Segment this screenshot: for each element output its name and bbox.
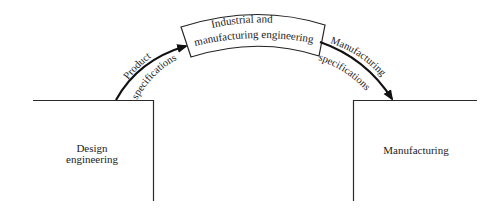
engineering-flow-diagram: Design engineering Manufacturing Product… bbox=[0, 0, 494, 219]
manufacturing-specifications-arrow: Manufacturing specifications bbox=[317, 34, 392, 99]
product-specifications-arrow: Product specifications bbox=[116, 46, 186, 101]
design-engineering-block: Design engineering bbox=[33, 101, 154, 202]
manufacturing-block: Manufacturing bbox=[354, 101, 478, 202]
industrial-manufacturing-engineering-box: Industrial and manufacturing engineering bbox=[181, 12, 325, 57]
design-label-line2: engineering bbox=[66, 153, 118, 165]
manufacturing-label: Manufacturing bbox=[383, 144, 449, 156]
